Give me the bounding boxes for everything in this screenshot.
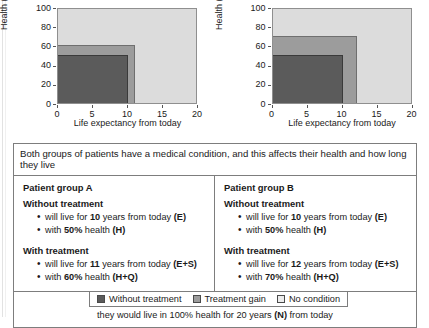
bullet-item: will live for 10 years from today (E) [238,211,409,224]
b-x-tick-mark [307,105,308,108]
bullet-symbol: (E+S) [375,259,399,269]
group-a-title: Patient group A [23,182,207,193]
a-y-tick-label: 100 [15,4,51,13]
legend-swatch-icon [193,295,201,303]
legend-label: Without treatment [109,294,182,304]
bullet-value: 10 [90,212,100,222]
legend-item: No condition [277,294,340,304]
a-y-tick-mark [53,66,56,67]
bullet-text-pre: with [45,272,64,282]
bullet-text-mid: years from today [100,212,174,222]
legend-label: Treatment gain [205,294,266,304]
b-y-tick-mark [268,85,271,86]
panel-banner: Both groups of patients have a medical c… [14,144,416,176]
legend-swatch-icon [277,295,285,303]
bullet-value: 60% [64,272,82,282]
a-y-tick-label: 40 [15,61,51,70]
group-a-without-heading: Without treatment [23,198,207,209]
chart-b-y-axis-label: Health (%) [214,0,224,30]
bullet-value: 10 [291,212,301,222]
bullet-item: with 50% health (H) [37,224,207,237]
bullet-symbol: (E) [375,212,387,222]
chart-b-without-treatment-region [273,55,343,103]
bullet-text-mid: health [82,272,112,282]
legend-item: Without treatment [97,294,182,304]
group-a-without-list: will live for 10 years from today (E)wit… [23,211,207,237]
a-y-tick-label: 60 [15,42,51,51]
chart-legend: Without treatmentTreatment gainNo condit… [89,291,348,307]
group-b-title: Patient group B [224,182,409,193]
b-y-tick-mark [268,46,271,47]
footer-subline: they would live in 100% health for 20 ye… [20,309,410,321]
bullet-text-mid: health [82,225,112,235]
b-y-tick-label: 80 [230,23,266,32]
group-b-without-list: will live for 10 years from today (E)wit… [224,211,409,237]
bullet-text-pre: will live for [45,259,90,269]
a-x-tick-mark [57,105,58,108]
chart-group-b: Health (%) 020406080100 05101520 Life ex… [215,0,429,140]
a-x-tick-mark [127,105,128,108]
chart-a-x-axis-label: Life expectancy from today [40,118,215,128]
a-y-tick-label: 20 [15,80,51,89]
chart-b-x-axis-label: Life expectancy from today [255,118,429,128]
b-y-tick-mark [268,104,271,105]
chart-group-a: Health (%) 020406080100 05101520 Life ex… [0,0,215,140]
b-y-tick-label: 40 [230,61,266,70]
legend-swatch-icon [97,295,105,303]
bullet-text-mid: years from today [301,259,375,269]
bullet-value: 12 [291,259,301,269]
a-y-tick-mark [53,46,56,47]
group-b-with-heading: With treatment [224,245,409,256]
b-x-tick-mark [412,105,413,108]
bullet-text-pre: with [45,225,64,235]
chart-a-plot-area [57,8,197,104]
bullet-text-mid: health [283,272,313,282]
legend-item: Treatment gain [193,294,266,304]
b-x-tick-mark [377,105,378,108]
group-a-with-heading: With treatment [23,245,207,256]
a-y-tick-label: 0 [15,100,51,109]
bullet-item: will live for 12 years from today (E+S) [238,258,409,271]
footer-subline-symbol: (N) [274,310,287,320]
a-y-tick-mark [53,85,56,86]
bullet-value: 70% [265,272,283,282]
bullet-value: 50% [64,225,82,235]
a-y-tick-label: 80 [15,23,51,32]
bullet-symbol: (E+S) [173,259,197,269]
group-a-with-list: will live for 11 years from today (E+S)w… [23,258,207,284]
bullet-symbol: (H+Q) [313,272,338,282]
b-y-tick-label: 100 [230,4,266,13]
a-y-tick-mark [53,27,56,28]
b-y-tick-mark [268,66,271,67]
bullet-symbol: (H) [112,225,125,235]
chart-a-without-treatment-region [58,55,128,103]
bullet-value: 11 [90,259,100,269]
b-y-tick-mark [268,8,271,9]
bullet-value: 50% [265,225,283,235]
footer-subline-post: from today [287,310,333,320]
bullet-text-pre: will live for [45,212,90,222]
bullet-item: with 60% health (H+Q) [37,271,207,284]
a-y-tick-mark [53,104,56,105]
bullet-text-mid: years from today [100,259,174,269]
a-y-tick-mark [53,8,56,9]
bullet-item: will live for 11 years from today (E+S) [37,258,207,271]
bullet-text-mid: health [283,225,313,235]
bullet-text-pre: will live for [246,212,291,222]
footer-subline-pre: they would live in 100% health for 20 ye… [97,310,274,320]
bullet-text-pre: with [246,225,265,235]
chart-b-plot-area [272,8,412,104]
b-x-tick-mark [272,105,273,108]
b-y-tick-label: 20 [230,80,266,89]
bullet-symbol: (H) [313,225,326,235]
bullet-text-mid: years from today [301,212,375,222]
charts-container: Health (%) 020406080100 05101520 Life ex… [0,0,429,140]
bullet-item: with 70% health (H+Q) [238,271,409,284]
bullet-item: with 50% health (H) [238,224,409,237]
bullet-symbol: (E) [174,212,186,222]
group-b-without-heading: Without treatment [224,198,409,209]
b-y-tick-mark [268,27,271,28]
legend-label: No condition [289,294,340,304]
b-x-tick-mark [342,105,343,108]
a-x-tick-mark [162,105,163,108]
